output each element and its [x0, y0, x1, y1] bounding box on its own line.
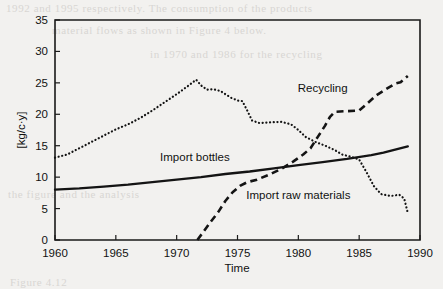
- y-axis-ticks: 05101520253035: [35, 14, 60, 246]
- x-tick-label: 1970: [164, 247, 190, 259]
- y-tick-label: 20: [35, 108, 48, 120]
- y-tick-label: 15: [35, 140, 48, 152]
- series-path-solid: [55, 146, 408, 189]
- series-label: Import bottles: [160, 151, 230, 163]
- x-tick-label: 1965: [103, 247, 129, 259]
- x-tick-label: 1985: [346, 247, 372, 259]
- y-tick-label: 5: [42, 203, 48, 215]
- y-axis-title: [kg/c·y]: [15, 111, 27, 148]
- x-axis-ticks: 1960196519701975198019851990: [42, 235, 433, 259]
- y-tick-label: 10: [35, 171, 48, 183]
- y-tick-label: 0: [42, 234, 48, 246]
- x-tick-label: 1975: [225, 247, 251, 259]
- x-tick-label: 1980: [286, 247, 312, 259]
- x-axis-title: Time: [224, 262, 249, 274]
- y-tick-label: 25: [35, 77, 48, 89]
- x-tick-label: 1960: [42, 247, 68, 259]
- series-label-group: Import bottlesImport raw materialsRecycl…: [160, 82, 351, 201]
- x-tick-label: 1990: [407, 247, 433, 259]
- data-series-group: [55, 76, 408, 240]
- plot-frame: [55, 20, 420, 240]
- line-chart: 05101520253035 1960196519701975198019851…: [0, 0, 443, 289]
- y-tick-label: 35: [35, 14, 48, 26]
- figure-container: 1992 and 1995 respectively. The consumpt…: [0, 0, 443, 289]
- series-label: Recycling: [298, 82, 348, 94]
- y-tick-label: 30: [35, 45, 48, 57]
- series-label: Import raw materials: [246, 189, 350, 201]
